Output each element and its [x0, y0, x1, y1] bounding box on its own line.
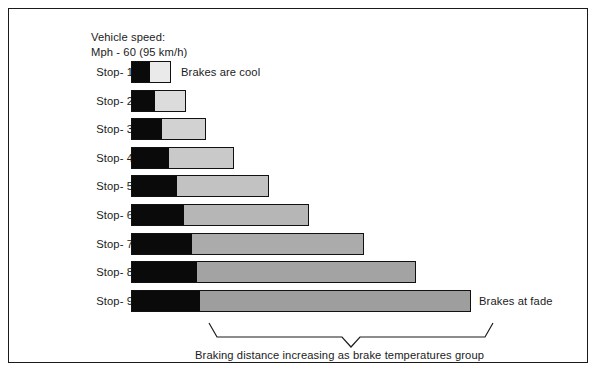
- bar-row: Stop- 6: [9, 204, 587, 226]
- bar-segment-black: [132, 176, 177, 196]
- chart-title-line-1: Vehicle speed:: [91, 31, 165, 43]
- bar-segment-gray: [177, 176, 268, 196]
- stacked-bar: [131, 261, 416, 283]
- bar-segment-black: [132, 291, 200, 311]
- bracket-caption: Braking distance increasing as brake tem…: [195, 349, 484, 361]
- bar-row-label: Stop- 8: [9, 266, 133, 278]
- bar-row-label: Stop- 4: [9, 152, 133, 164]
- stacked-bar: [131, 61, 171, 83]
- stacked-bar: [131, 175, 269, 197]
- bar-row: Stop- 4: [9, 147, 587, 169]
- bar-segment-black: [132, 262, 197, 282]
- chart-title-line-2: Mph - 60 (95 km/h): [91, 46, 187, 58]
- bar-segment-gray: [162, 119, 205, 139]
- stacked-bar: [131, 204, 309, 226]
- bar-row: Stop- 1Brakes are cool: [9, 61, 587, 83]
- bracket-annotation: [201, 321, 501, 349]
- bar-row: Stop- 8: [9, 261, 587, 283]
- stacked-bar: [131, 118, 206, 140]
- bar-segment-black: [132, 234, 192, 254]
- bar-row-label: Stop- 5: [9, 180, 133, 192]
- bar-segment-black: [132, 148, 169, 168]
- bar-segment-gray: [155, 91, 185, 111]
- bar-segment-gray: [169, 148, 233, 168]
- bar-row-label: Stop- 9: [9, 295, 133, 307]
- bar-segment-gray: [200, 291, 470, 311]
- bar-row-label: Stop- 2: [9, 95, 133, 107]
- stacked-bar: [131, 233, 364, 255]
- bar-row: Stop- 3: [9, 118, 587, 140]
- bar-segment-gray: [192, 234, 363, 254]
- bar-row: Stop- 5: [9, 175, 587, 197]
- stacked-bar: [131, 290, 471, 312]
- bar-segment-gray: [150, 62, 170, 82]
- bar-row-label: Stop- 1: [9, 66, 133, 78]
- bar-row-label: Stop- 6: [9, 209, 133, 221]
- bar-segment-black: [132, 91, 155, 111]
- stacked-bar: [131, 90, 186, 112]
- chart-frame: Vehicle speed: Mph - 60 (95 km/h) Stop- …: [8, 8, 588, 363]
- bar-row: Stop- 2: [9, 90, 587, 112]
- note-brakes-are-cool: Brakes are cool: [181, 66, 260, 78]
- bar-row: Stop- 9Brakes at fade: [9, 290, 587, 312]
- bar-segment-gray: [197, 262, 415, 282]
- bar-row: Stop- 7: [9, 233, 587, 255]
- bar-segment-black: [132, 119, 162, 139]
- bar-segment-black: [132, 62, 150, 82]
- bar-row-label: Stop- 7: [9, 238, 133, 250]
- chart-figure: Vehicle speed: Mph - 60 (95 km/h) Stop- …: [0, 0, 597, 372]
- note-brakes-at-fade: Brakes at fade: [479, 295, 553, 307]
- stacked-bar: [131, 147, 234, 169]
- bar-segment-black: [132, 205, 184, 225]
- bar-segment-gray: [184, 205, 308, 225]
- bar-row-label: Stop- 3: [9, 123, 133, 135]
